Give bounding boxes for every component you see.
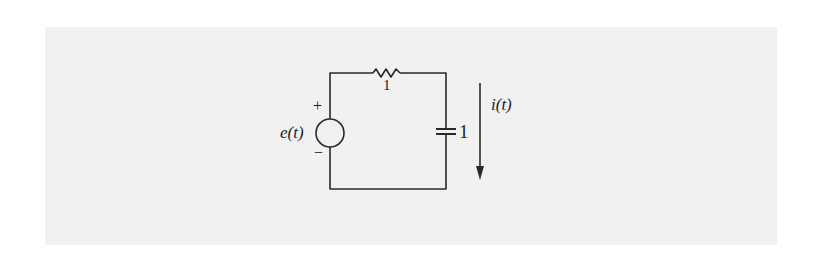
top-wire-right [400,73,446,129]
capacitor-value-label: 1 [459,121,469,142]
circuit-diagram: 1 1 + − e(t) i(t) [0,0,817,262]
source-plus-sign: + [313,97,322,114]
source-minus-sign: − [314,144,323,161]
source-label: e(t) [280,123,304,142]
voltage-source-icon [316,119,344,147]
bottom-wire [330,134,446,189]
current-label: i(t) [491,95,512,114]
resistor-icon [373,69,400,77]
resistor-value-label: 1 [383,77,391,93]
current-arrow-head-icon [476,166,484,180]
top-wire-left [330,73,373,119]
